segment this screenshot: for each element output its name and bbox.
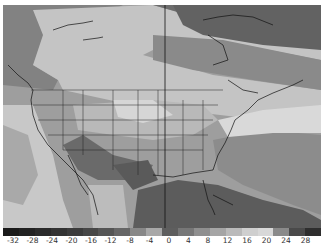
colorbar-swatch (83, 228, 99, 236)
colorbar-swatch (3, 228, 19, 236)
colorbar-tick-label: -16 (85, 236, 97, 246)
colorbar-tick-label: 24 (281, 236, 291, 246)
anomaly-zone-mexico (88, 185, 128, 228)
colorbar-tick-label: 12 (223, 236, 233, 246)
colorbar (3, 228, 321, 236)
colorbar-swatch (194, 228, 210, 236)
colorbar-swatch (289, 228, 305, 236)
colorbar-ticks: -32-28-24-20-16-12-8-40481216202428 (3, 236, 321, 246)
colorbar-swatch (210, 228, 226, 236)
colorbar-tick-label: -24 (46, 236, 58, 246)
colorbar-tick-label: 8 (206, 236, 211, 246)
colorbar-tick-label: -32 (7, 236, 19, 246)
colorbar-swatch (305, 228, 321, 236)
colorbar-swatch (35, 228, 51, 236)
colorbar-swatch (273, 228, 289, 236)
colorbar-swatch (162, 228, 178, 236)
colorbar-swatch (130, 228, 146, 236)
colorbar-tick-label: 4 (186, 236, 191, 246)
colorbar-swatch (178, 228, 194, 236)
colorbar-tick-label: -12 (104, 236, 116, 246)
colorbar-swatch (258, 228, 274, 236)
colorbar-swatch (146, 228, 162, 236)
colorbar-swatch (226, 228, 242, 236)
colorbar-swatch (114, 228, 130, 236)
colorbar-swatch (67, 228, 83, 236)
colorbar-tick-label: 0 (167, 236, 172, 246)
colorbar-swatch (98, 228, 114, 236)
colorbar-tick-label: -4 (146, 236, 153, 246)
colorbar-swatch (19, 228, 35, 236)
colorbar-tick-label: -20 (65, 236, 77, 246)
colorbar-tick-label: 16 (242, 236, 252, 246)
colorbar-swatch (242, 228, 258, 236)
weather-anomaly-map (3, 5, 321, 228)
colorbar-swatch (51, 228, 67, 236)
colorbar-tick-label: -8 (126, 236, 133, 246)
colorbar-tick-label: -28 (26, 236, 38, 246)
colorbar-tick-label: 20 (262, 236, 272, 246)
colorbar-tick-label: 28 (301, 236, 311, 246)
